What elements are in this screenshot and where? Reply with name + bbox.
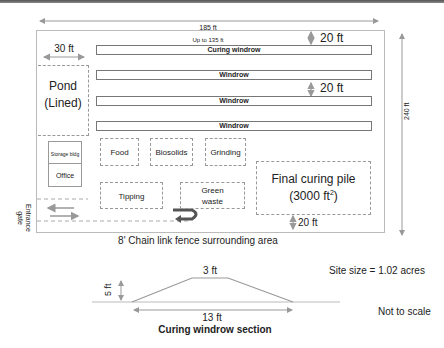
pond-sublabel: (Lined) xyxy=(38,96,88,110)
final-curing-pile-area: Final curing pile (3000 ft2) xyxy=(256,161,371,215)
green-waste-sublabel: waste xyxy=(181,197,244,206)
entrance-gate-label: Entrance gate xyxy=(16,204,32,232)
storage-label: Storage bldg xyxy=(49,151,81,157)
tipping-label: Tipping xyxy=(101,192,162,201)
food-area: Food xyxy=(100,138,139,166)
u-turn-arrow xyxy=(173,210,196,219)
green-waste-area: Green waste xyxy=(180,182,245,209)
tipping-area: Tipping xyxy=(100,182,163,209)
final-curing-size: (3000 ft2) xyxy=(257,189,370,203)
green-waste-label: Green xyxy=(181,186,244,195)
office-label: Office xyxy=(49,172,81,179)
office-building: Office xyxy=(48,163,82,187)
site-size: Site size = 1.02 acres xyxy=(329,266,425,276)
section-top-width: 3 ft xyxy=(203,266,217,276)
section-title: Curing windrow section xyxy=(158,325,271,335)
spacing-label-top: 20 ft xyxy=(320,32,343,44)
curing-windrow: Curing windrow xyxy=(96,45,372,55)
spacing-label-mid: 20 ft xyxy=(320,82,343,94)
storage-building: Storage bldg xyxy=(48,141,82,164)
food-label: Food xyxy=(101,148,138,157)
fence-caption: 8' Chain link fence surrounding area xyxy=(118,236,278,246)
pond-width-label: 30 ft xyxy=(54,44,73,54)
section-height-label: 5 ft xyxy=(104,283,113,296)
pond-label: Pond xyxy=(38,79,88,93)
windrow-length-label: Up to 135 ft xyxy=(192,37,223,43)
windrow-3: Windrow xyxy=(96,121,372,131)
final-curing-label: Final curing pile xyxy=(257,172,370,186)
windrow-profile xyxy=(132,278,293,302)
biosolids-area: Biosolids xyxy=(150,138,193,166)
width-label: 185 ft xyxy=(199,24,217,31)
grinding-label: Grinding xyxy=(206,148,245,157)
windrow-2: Windrow xyxy=(96,96,372,106)
grinding-area: Grinding xyxy=(205,138,246,166)
spacing-label-bottom: 20 ft xyxy=(298,218,317,228)
height-label: 240 ft xyxy=(403,102,410,120)
pond-area: Pond (Lined) xyxy=(38,65,89,136)
windrow-1: Windrow xyxy=(96,70,372,80)
section-base-width: 13 ft xyxy=(202,313,221,323)
biosolids-label: Biosolids xyxy=(151,148,192,157)
scale-note: Not to scale xyxy=(378,307,431,317)
